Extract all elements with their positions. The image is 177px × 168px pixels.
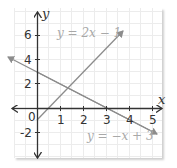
y-axis-label: y xyxy=(41,6,50,21)
x-tick-4: 4 xyxy=(126,113,134,127)
line-arrowhead-right xyxy=(37,72,157,134)
y-tick-minus-2: -2 xyxy=(20,126,32,140)
x-axis-label: x xyxy=(158,92,166,107)
coordinate-plane: y x 6 4 2 -2 0 1 2 3 4 5 y = 2x − 1 y = … xyxy=(0,0,177,168)
x-tick-5: 5 xyxy=(149,113,157,127)
origin-label: 0 xyxy=(28,110,36,124)
x-tick-3: 3 xyxy=(103,113,111,127)
line-y-equals-2x-minus-1 xyxy=(37,31,123,120)
x-tick-1: 1 xyxy=(57,113,65,127)
equation-label-1: y = 2x − 1 xyxy=(56,26,121,40)
y-tick-4: 4 xyxy=(24,53,32,67)
y-tick-2: 2 xyxy=(24,77,32,91)
x-tick-2: 2 xyxy=(80,113,88,127)
y-tick-6: 6 xyxy=(24,28,32,42)
equation-label-2: y = −x + 3 xyxy=(86,129,154,143)
